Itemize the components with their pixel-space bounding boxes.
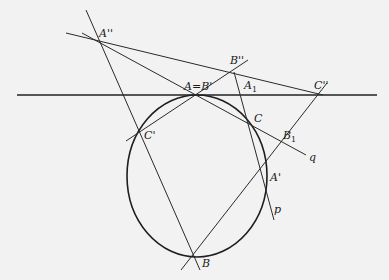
label-A1-main: A	[244, 79, 252, 92]
label-C-double-prime: C''	[314, 80, 328, 91]
label-B: B	[202, 258, 210, 269]
label-B1-main: B	[283, 129, 291, 142]
label-A1-sub: 1	[252, 85, 257, 94]
label-C: C	[254, 113, 262, 124]
label-B1-sub: 1	[291, 135, 296, 144]
label-q: q	[309, 152, 316, 163]
line-q	[82, 33, 306, 155]
label-p: p	[274, 204, 281, 215]
label-C-prime: C'	[144, 130, 155, 141]
diagram-canvas: A'' B'' C'' A=B' A1 C C' B1 q A' p B	[0, 0, 389, 280]
geometry-figure	[0, 0, 389, 280]
label-A-prime: A'	[270, 172, 281, 183]
label-A-equals-B-prime: A=B'	[184, 81, 212, 92]
label-B-double-prime: B''	[230, 55, 244, 66]
line-A2-B	[86, 10, 200, 270]
label-B1: B1	[283, 130, 296, 144]
label-A1: A1	[244, 80, 257, 94]
label-A-double-prime: A''	[99, 28, 113, 39]
conic-ellipse	[127, 95, 267, 257]
